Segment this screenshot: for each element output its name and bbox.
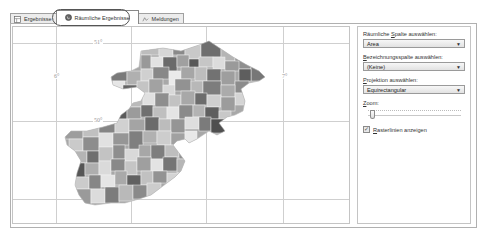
zoom-slider[interactable] xyxy=(363,108,465,120)
table-icon xyxy=(14,16,21,23)
choropleth-map xyxy=(13,27,350,224)
slider-track xyxy=(368,115,461,116)
map-viewer[interactable]: 51° 50° 6° 7° xyxy=(12,26,350,224)
tab-label: Räumliche Ergebnisse xyxy=(75,15,130,21)
slider-thumb[interactable] xyxy=(370,110,375,119)
label-column-label: Bezeichnungsspalte auswählen: xyxy=(363,54,465,60)
select-value: Equirectangular xyxy=(367,87,406,93)
select-value: (Keine) xyxy=(367,64,385,70)
chevron-down-icon: ▼ xyxy=(456,41,461,47)
spatial-column-label: Räumliche Spalte auswählen: xyxy=(363,31,465,37)
tab-raeumliche-ergebnisse[interactable]: Räumliche Ergebnisse xyxy=(56,10,139,24)
slider-ticks xyxy=(368,110,461,111)
chevron-down-icon: ▼ xyxy=(456,87,461,93)
spatial-options-panel: Räumliche Spalte auswählen: Area ▼ Bezei… xyxy=(357,26,471,224)
gridlines-toggle[interactable]: ✓ Rasterlinien anzeigen xyxy=(363,126,465,133)
projection-select[interactable]: Equirectangular ▼ xyxy=(363,85,465,94)
chevron-down-icon: ▼ xyxy=(456,64,461,70)
select-value: Area xyxy=(367,41,379,47)
message-icon xyxy=(142,16,149,23)
tab-label: Meldungen xyxy=(152,16,179,22)
projection-label: Projektion auswählen: xyxy=(363,77,465,83)
zoom-label: Zoom: xyxy=(363,100,465,106)
label-column-select[interactable]: (Keine) ▼ xyxy=(363,62,465,71)
gridlines-checkbox[interactable]: ✓ xyxy=(363,126,370,133)
globe-icon xyxy=(65,14,72,21)
result-tabstrip: Ergebnisse Räumliche Ergebnisse Meldunge… xyxy=(10,10,183,24)
gridlines-label: Rasterlinien anzeigen xyxy=(373,127,427,133)
tab-label: Ergebnisse xyxy=(24,16,52,22)
spatial-column-select[interactable]: Area ▼ xyxy=(363,39,465,48)
